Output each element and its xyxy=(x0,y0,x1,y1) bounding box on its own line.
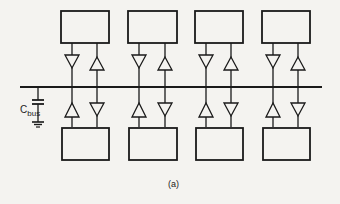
buffer-up-icon xyxy=(132,103,146,117)
capacitor-label: Cbus xyxy=(20,104,40,118)
bus-diagram xyxy=(0,0,340,204)
buffer-down-icon xyxy=(65,55,79,68)
top-module-box xyxy=(61,11,109,43)
buffer-down-icon xyxy=(291,103,305,116)
buffer-up-icon xyxy=(90,57,104,70)
bottom-module-box xyxy=(62,128,109,160)
buffer-down-icon xyxy=(90,103,104,116)
buffer-up-icon xyxy=(199,103,213,117)
top-module-box xyxy=(262,11,310,43)
top-module-box xyxy=(128,11,177,43)
buffer-down-icon xyxy=(199,55,213,68)
buffer-down-icon xyxy=(224,103,238,116)
buffer-up-icon xyxy=(158,57,172,70)
buffer-down-icon xyxy=(132,55,146,68)
figure-label: (a) xyxy=(168,179,179,189)
buffer-up-icon xyxy=(224,57,238,70)
bottom-module-box xyxy=(263,128,310,160)
bottom-module-box xyxy=(196,128,243,160)
buffer-down-icon xyxy=(158,103,172,116)
buffer-up-icon xyxy=(291,57,305,70)
bottom-module-box xyxy=(129,128,177,160)
capacitor-label-sub: bus xyxy=(27,109,40,118)
buffer-up-icon xyxy=(65,103,79,117)
buffer-up-icon xyxy=(266,103,280,117)
top-module-box xyxy=(195,11,243,43)
buffer-down-icon xyxy=(266,55,280,68)
